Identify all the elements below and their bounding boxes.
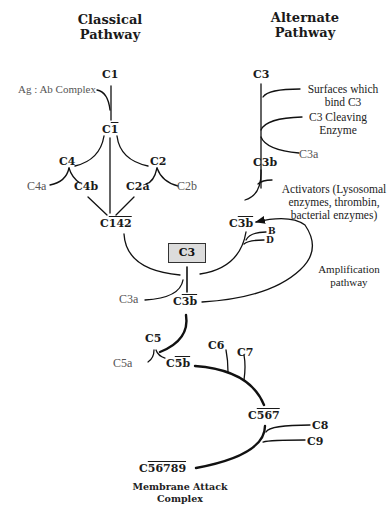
node-overline: 567 [257,409,280,422]
c3a-alt-branch [261,137,299,153]
surfaces-bind-c3-label: Surfaces which bind C3 [303,83,383,109]
note-line: Enzyme [305,124,371,137]
node-prefix: C [100,217,109,230]
ag-ab-branch [97,90,110,110]
c1-to-c4-arc [75,136,104,166]
node-overline: 5b [175,357,190,370]
c6-branch [226,350,228,372]
surfaces-branch [263,89,300,97]
note-line: Activators (Lysosomal [276,183,392,196]
note-line: bind C3 [303,96,383,109]
node-alt-c3b: C3b [253,157,277,168]
node-c5: C5 [145,333,161,344]
note-line: bacterial enzymes) [276,209,392,222]
title-line: Pathway [70,27,150,42]
node-c1: C1 [102,69,118,80]
node-c5b: C5b [166,358,190,369]
node-prefix: C [139,462,148,475]
c3b-to-active-arc [245,170,261,200]
node-c2b: C2b [177,180,197,192]
node-overline: 3b [182,295,197,308]
node-c6: C6 [208,340,224,351]
node-c4: C4 [59,156,75,167]
title-line: Alternate [260,10,350,25]
node-c5a: C5a [113,357,132,369]
node-overline: 142 [109,217,132,230]
node-overline: 3b [238,217,253,230]
cleaving-branch [261,117,302,130]
c2-to-c2b [157,168,178,186]
activators-label: Activators (Lysosomal enzymes, thrombin,… [276,183,392,222]
note-line: pathway [311,276,387,289]
c3-central-box: C3 [168,243,206,263]
node-prefix: C [173,295,182,308]
node-c4b: C4b [74,181,98,192]
node-alt-c3: C3 [253,69,269,80]
c4b-to-c142 [88,197,107,215]
note-line: C3 Cleaving [305,111,371,124]
node-c9: C9 [307,436,323,447]
node-c56789: C56789 [139,463,186,474]
node-prefix: C [229,217,238,230]
membrane-attack-complex-label: Membrane Attack Complex [118,481,242,505]
node-c8: C8 [312,420,328,431]
node-c4a: C4a [27,180,46,192]
node-overline: 1 [111,123,119,136]
c5-to-c5a [148,350,154,362]
title-line: Pathway [260,25,350,40]
note-line: enzymes, thrombin, [276,196,392,209]
alternate-pathway-title: Alternate Pathway [260,10,350,40]
node-c2: C2 [150,156,166,167]
note-line: Surfaces which [303,83,383,96]
node-alt-c3a: C3a [299,148,318,160]
factor-d-branch [244,240,264,244]
c2a-to-c142 [116,197,134,215]
note-line: Membrane Attack [118,481,242,493]
node-overline: 56789 [148,462,186,475]
node-c2a: C2a [126,181,150,192]
ag-ab-complex-label: Ag : Ab Complex [18,84,96,95]
c3-cleaving-enzyme-label: C3 Cleaving Enzyme [305,111,371,137]
c3b-to-c3-arc [200,232,246,274]
factor-d-label: D [266,236,274,245]
classical-pathway-title: Classical Pathway [70,12,150,42]
c1-to-c2-arc [117,136,148,166]
node-prefix: C [102,123,111,136]
c3b-to-c5-arc [160,315,186,352]
node-c3a: C3a [119,293,138,305]
node-c567: C567 [248,410,280,421]
complement-pathway-diagram: Classical Pathway Alternate Pathway C1 A… [0,0,392,517]
c9-branch [263,440,305,442]
amplification-pathway-label: Amplification pathway [311,263,387,289]
node-prefix: C [248,409,257,422]
c8-branch [266,425,310,432]
c567-to-mac-arc [196,426,265,468]
note-line: Complex [118,493,242,505]
node-c1-activated: C1 [102,124,118,135]
c4-to-c4a [50,168,69,185]
amplification-loop [202,219,312,302]
node-c142: C142 [100,218,132,229]
node-c3b: C3b [173,296,197,307]
node-prefix: C [166,357,175,370]
node-c7: C7 [237,347,253,358]
title-line: Classical [70,12,150,27]
node-c3b-activated: C3b [229,218,253,229]
c5b-to-c567-arc [195,366,264,405]
factor-b-branch [246,232,266,240]
note-line: Amplification [311,263,387,276]
